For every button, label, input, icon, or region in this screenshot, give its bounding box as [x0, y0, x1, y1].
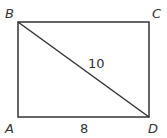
vertex-label-c: C [152, 6, 162, 21]
rectangle-diagram: B C A D 10 8 [0, 0, 167, 138]
bottom-side-length-label: 8 [80, 121, 88, 136]
vertex-label-a: A [4, 121, 14, 136]
diagonal-bd [18, 22, 149, 117]
vertex-label-b: B [5, 6, 14, 21]
diagonal-length-label: 10 [88, 56, 105, 71]
vertex-label-d: D [148, 121, 158, 136]
